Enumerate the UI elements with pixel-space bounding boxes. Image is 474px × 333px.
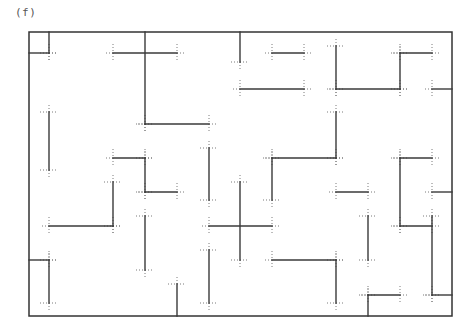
maze-walls	[29, 32, 452, 316]
maze-diagram	[0, 0, 474, 333]
dotted-ticks	[40, 37, 441, 312]
maze-border	[29, 32, 452, 316]
